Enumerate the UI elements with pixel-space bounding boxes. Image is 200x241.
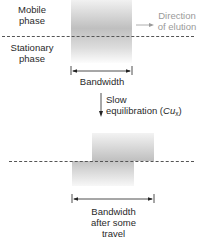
bandwidth-arrow-bottom <box>71 194 156 204</box>
bandwidth-arrow-top <box>70 66 134 76</box>
slow-equilibration-label: Slow equilibration (Cux) <box>106 94 182 119</box>
direction-of-elution-label: Direction of elution <box>155 10 199 32</box>
mass-transfer-symbol: Cu <box>163 105 175 116</box>
mobile-phase-label: Mobile phase <box>6 4 58 26</box>
direction-arrow-icon <box>136 23 156 27</box>
phase-boundary-line-bottom <box>9 161 194 162</box>
initial-solute-band <box>71 0 132 63</box>
bandwidth-label-top: Bandwidth <box>70 76 134 87</box>
mobile-phase-band-after-travel <box>92 133 154 161</box>
phase-boundary-line-top <box>2 36 194 37</box>
down-arrow-icon <box>99 93 103 118</box>
stationary-phase-band-after-travel <box>72 161 134 186</box>
stationary-phase-label: Stationary phase <box>4 42 60 64</box>
bandwidth-after-travel-label: Bandwidth after some travel <box>71 206 156 239</box>
